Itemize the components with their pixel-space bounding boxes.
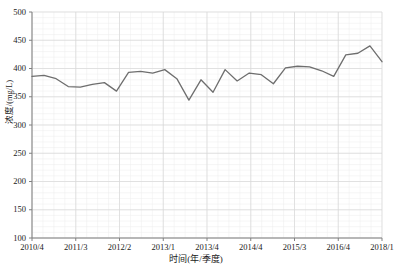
- y-tick-label: 250: [0, 149, 26, 158]
- y-tick-label: 500: [0, 8, 26, 17]
- x-tick-label: 2014/4: [229, 243, 273, 252]
- x-tick-label: 2011/3: [54, 243, 98, 252]
- y-tick-label: 450: [0, 36, 26, 45]
- y-tick-label: 100: [0, 234, 26, 243]
- x-tick-label: 2013/1: [141, 243, 185, 252]
- x-axis-title: 时间(年/季度): [0, 252, 392, 265]
- y-tick-label: 150: [0, 205, 26, 214]
- x-tick-label: 2013/4: [185, 243, 229, 252]
- y-axis-title: 浓度/(mg/L): [2, 70, 14, 134]
- x-tick-label: 2018/1: [360, 243, 398, 252]
- axis-ticks: [29, 12, 382, 241]
- x-tick-label: 2010/4: [10, 243, 54, 252]
- x-tick-label: 2015/3: [273, 243, 317, 252]
- x-tick-label: 2016/4: [316, 243, 360, 252]
- y-tick-label: 200: [0, 177, 26, 186]
- x-tick-label: 2012/2: [98, 243, 142, 252]
